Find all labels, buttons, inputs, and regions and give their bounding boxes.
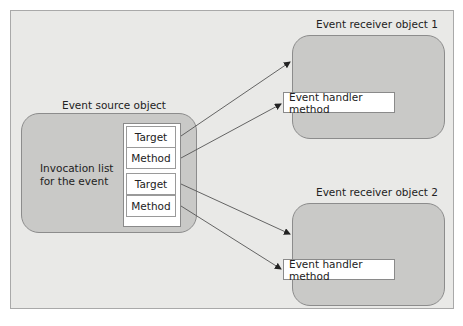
connector-arrows xyxy=(0,0,463,326)
arrow-target2-to-receiver2 xyxy=(181,184,290,234)
arrow-method2-to-handler2 xyxy=(181,206,281,269)
arrow-target1-to-receiver1 xyxy=(181,62,290,136)
arrow-method1-to-handler1 xyxy=(181,104,281,158)
